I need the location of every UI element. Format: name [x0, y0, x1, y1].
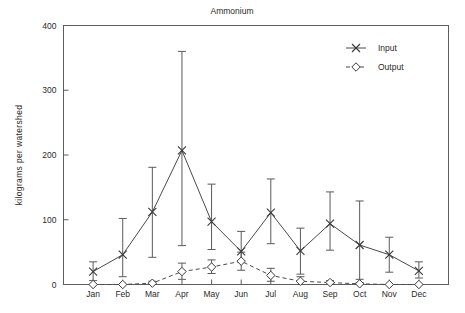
series-markers [89, 146, 423, 288]
x-tick-label: Jul [265, 289, 276, 299]
data-point-marker [207, 263, 215, 271]
x-tick-label: Oct [353, 289, 367, 299]
series-lines [93, 150, 419, 284]
x-tick-label: Mar [145, 289, 160, 299]
data-point-marker [385, 280, 393, 288]
data-point-marker [355, 280, 363, 288]
chart-title: Ammonium [211, 6, 254, 16]
y-tick-label: 200 [42, 150, 56, 160]
data-point-marker [178, 267, 186, 275]
data-point-marker [326, 278, 334, 286]
data-point-marker [89, 280, 97, 288]
ammonium-line-chart: Ammonium kilograms per watershed 0100200… [0, 0, 465, 313]
y-tick-label: 0 [52, 280, 57, 290]
y-tick-label: 300 [42, 85, 56, 95]
chart-legend: InputOutput [346, 43, 404, 72]
chart-container: Ammonium kilograms per watershed 0100200… [0, 0, 465, 313]
x-tick-label: Dec [411, 289, 427, 299]
data-point-marker [148, 279, 156, 287]
x-tick-label: Nov [382, 289, 398, 299]
series-line-output [93, 261, 419, 284]
y-tick-label: 400 [42, 21, 56, 31]
data-point-marker [119, 280, 127, 288]
y-axis-label: kilograms per watershed [14, 105, 24, 206]
data-point-marker [237, 257, 245, 265]
x-tick-label: Apr [175, 289, 188, 299]
y-axis-ticks: 0100200300400 [42, 21, 68, 290]
x-tick-label: Sep [322, 289, 337, 299]
legend-label-input: Input [378, 43, 398, 53]
x-tick-label: May [204, 289, 221, 299]
x-tick-label: Aug [293, 289, 308, 299]
x-tick-label: Jan [86, 289, 100, 299]
y-tick-label: 100 [42, 215, 56, 225]
data-point-marker [267, 271, 275, 279]
legend-label-output: Output [378, 62, 404, 72]
series-line-input [93, 150, 419, 271]
x-tick-label: Feb [115, 289, 130, 299]
x-axis-ticks: JanFebMarAprMayJunJulAugSepOctNovDec [86, 280, 427, 299]
x-tick-label: Jun [234, 289, 248, 299]
data-point-marker [352, 63, 360, 71]
data-point-marker [415, 280, 423, 288]
